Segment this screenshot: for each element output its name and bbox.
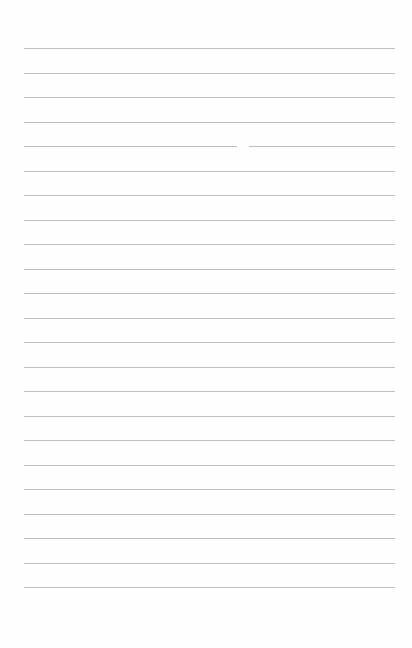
ruled-line [24,293,395,294]
ruled-line [24,269,395,270]
ruled-line [24,146,395,147]
lined-paper-page [0,0,412,648]
ruled-line [24,587,395,588]
ruled-line [24,440,395,441]
ruled-line [24,465,395,466]
ruled-line [24,122,395,123]
ruled-line [24,538,395,539]
ruled-line [24,195,395,196]
ruled-line [24,514,395,515]
ruled-line [24,171,395,172]
line-gap [237,145,249,148]
ruled-line [24,220,395,221]
ruled-line [24,391,395,392]
ruled-line [24,244,395,245]
ruled-line [24,563,395,564]
ruled-line [24,73,395,74]
ruled-line [24,318,395,319]
ruled-line [24,416,395,417]
ruled-line [24,367,395,368]
ruled-line [24,489,395,490]
ruled-line [24,97,395,98]
ruled-line [24,48,395,49]
ruled-line [24,342,395,343]
